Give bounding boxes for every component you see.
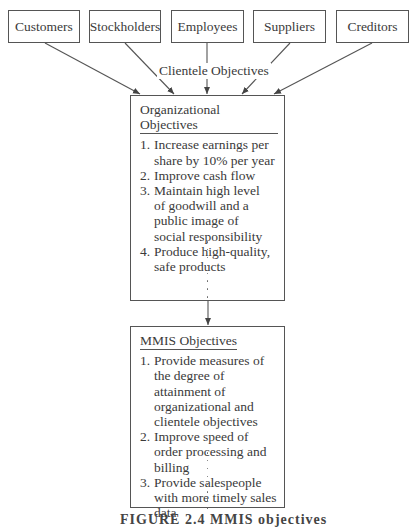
mmis-objectives-title: MMIS Objectives <box>140 333 237 350</box>
customers-label: Customers <box>15 19 73 35</box>
creditors-label: Creditors <box>347 19 397 35</box>
creditors-box: Creditors <box>336 10 409 43</box>
customers-box: Customers <box>8 10 80 43</box>
mmis-objective-item: 2. Improve speed of order processing and… <box>140 429 278 475</box>
organizational-objectives-title: Organizational Objectives <box>140 102 278 134</box>
mmis-objectives-box: MMIS Objectives 1. Provide measures of t… <box>130 326 285 508</box>
figure-caption: FIGURE 2.4 MMIS objectives <box>120 512 327 528</box>
suppliers-label: Suppliers <box>264 19 315 35</box>
mmis-objective-item: 1. Provide measures of the degree of att… <box>140 353 278 429</box>
org-objective-item: 4. Produce high-quality, safe products <box>140 244 278 274</box>
stockholders-box: Stockholders <box>89 10 161 43</box>
org-objective-item: 3. Maintain high level of goodwill and a… <box>140 183 278 244</box>
org-objective-item: 2. Improve cash flow <box>140 168 278 183</box>
employees-box: Employees <box>171 10 244 43</box>
employees-label: Employees <box>178 19 238 35</box>
suppliers-box: Suppliers <box>253 10 326 43</box>
continuation-dots <box>207 241 209 304</box>
stockholders-label: Stockholders <box>90 19 161 35</box>
organizational-objectives-box: Organizational Objectives 1. Increase ea… <box>130 95 285 301</box>
org-objective-item: 1. Increase earnings per share by 10% pe… <box>140 137 278 167</box>
continuation-dots <box>207 452 209 515</box>
clientele-objectives-label: Clientele Objectives <box>157 63 271 79</box>
